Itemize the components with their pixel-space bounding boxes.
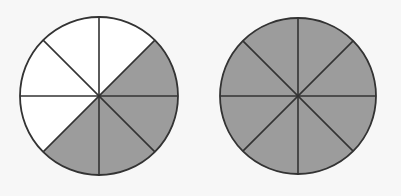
right-fraction-circle (220, 18, 376, 174)
left-fraction-circle (20, 17, 178, 175)
fraction-circles-diagram (0, 0, 401, 196)
